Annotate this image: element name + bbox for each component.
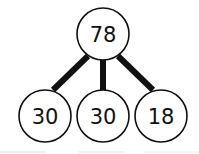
edge-root-to-child-1 — [53, 56, 88, 90]
child-node-1-label: 30 — [32, 105, 59, 129]
child-node-2-label: 30 — [90, 105, 117, 129]
root-node-label: 78 — [90, 23, 117, 47]
edges — [53, 56, 153, 90]
edge-root-to-child-3 — [118, 56, 153, 90]
child-node-1: 30 — [19, 90, 71, 142]
child-node-3-label: 18 — [148, 105, 175, 129]
tree-diagram: 78 30 30 18 — [0, 0, 199, 154]
root-node: 78 — [77, 8, 129, 60]
child-node-2: 30 — [77, 90, 129, 142]
child-node-3: 18 — [135, 90, 187, 142]
